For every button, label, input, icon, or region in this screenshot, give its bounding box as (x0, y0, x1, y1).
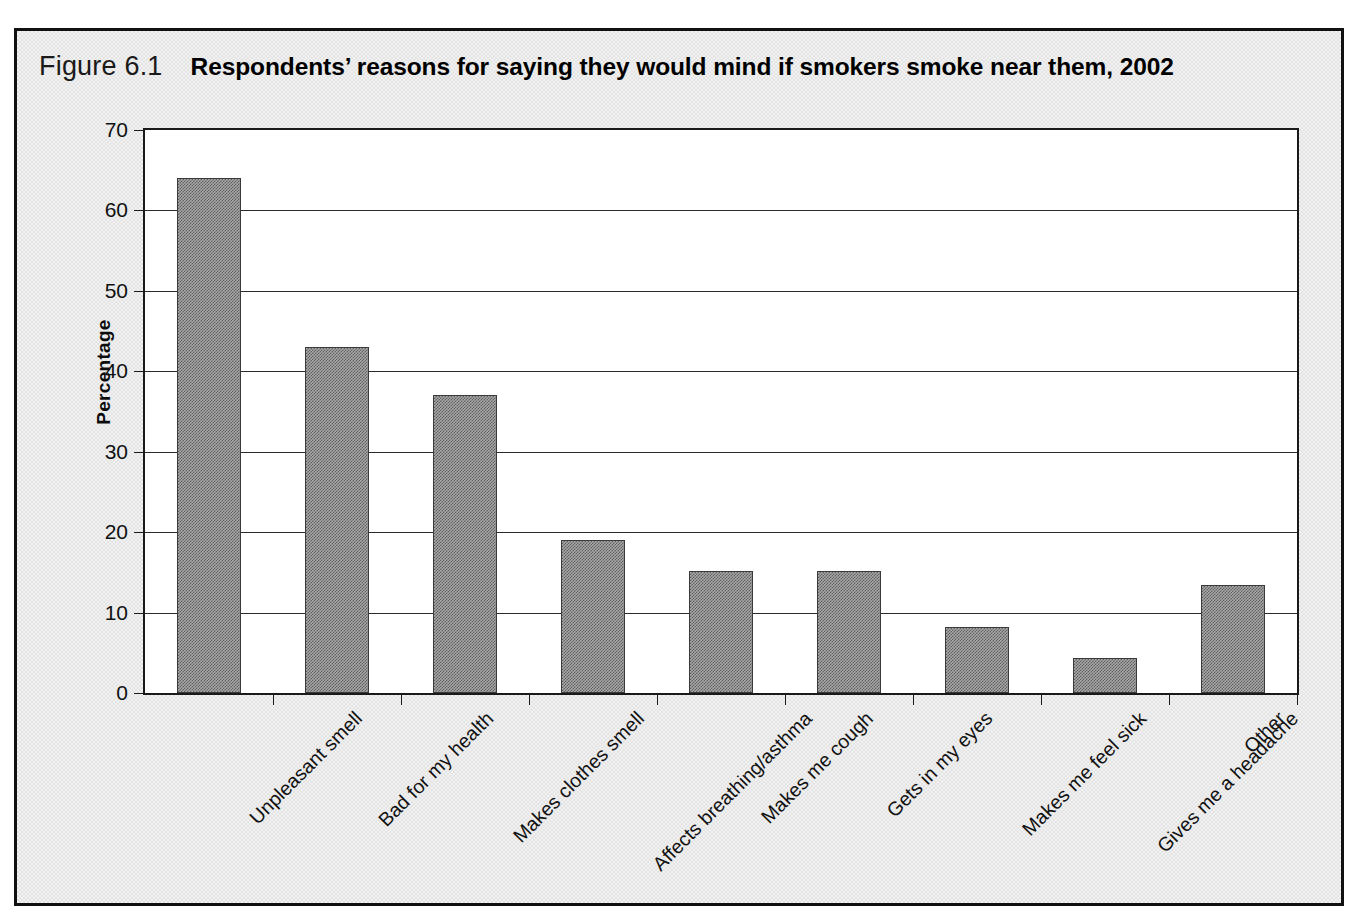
x-axis-tick (1041, 693, 1042, 705)
y-axis-tick-label: 60 (105, 198, 128, 222)
figure-title: Respondents’ reasons for saying they wou… (191, 53, 1174, 81)
figure-number: Figure 6.1 (39, 51, 163, 82)
y-axis-tick (134, 613, 145, 614)
y-axis-tick (134, 130, 145, 131)
x-axis-category-label: Unpleasant smell (245, 707, 367, 829)
x-axis-category-label: Makes me feel sick (1018, 707, 1152, 841)
x-axis-category-label: Bad for my health (374, 707, 498, 831)
y-axis-tick (134, 371, 145, 372)
figure-title-row: Figure 6.1 Respondents’ reasons for sayi… (39, 51, 1174, 91)
x-axis-tick (1169, 693, 1170, 705)
y-axis-tick-label: 10 (105, 600, 128, 624)
bar (561, 540, 625, 693)
x-axis-category-label: Makes me cough (756, 707, 877, 828)
bar (945, 627, 1009, 693)
y-axis-tick-label: 20 (105, 520, 128, 544)
y-axis-tick-label: 40 (105, 359, 128, 383)
bar (1201, 585, 1265, 693)
gridline (145, 291, 1297, 292)
plot-area: 010203040506070 (143, 128, 1299, 695)
x-axis-tick (273, 693, 274, 705)
x-axis-tick (785, 693, 786, 705)
figure-frame: Figure 6.1 Respondents’ reasons for sayi… (14, 28, 1344, 906)
y-axis-tick (134, 532, 145, 533)
x-axis-tick (1297, 693, 1298, 705)
y-axis-tick (134, 693, 145, 694)
bar (177, 178, 241, 693)
x-axis-tick (529, 693, 530, 705)
bar (817, 571, 881, 693)
x-axis-tick (913, 693, 914, 705)
y-axis-tick-label: 0 (116, 681, 128, 705)
bar (305, 347, 369, 693)
bar (1073, 658, 1137, 693)
y-axis-tick-label: 70 (105, 118, 128, 142)
y-axis-tick-label: 50 (105, 278, 128, 302)
x-axis-category-label: Makes clothes smell (508, 707, 648, 847)
bar (689, 571, 753, 693)
gridline (145, 210, 1297, 211)
x-axis-tick (657, 693, 658, 705)
y-axis-tick (134, 452, 145, 453)
x-axis-category-label: Gets in my eyes (882, 707, 997, 822)
y-axis-tick (134, 210, 145, 211)
x-axis-tick (401, 693, 402, 705)
y-axis-tick-label: 30 (105, 439, 128, 463)
y-axis-tick (134, 291, 145, 292)
bar (433, 395, 497, 693)
